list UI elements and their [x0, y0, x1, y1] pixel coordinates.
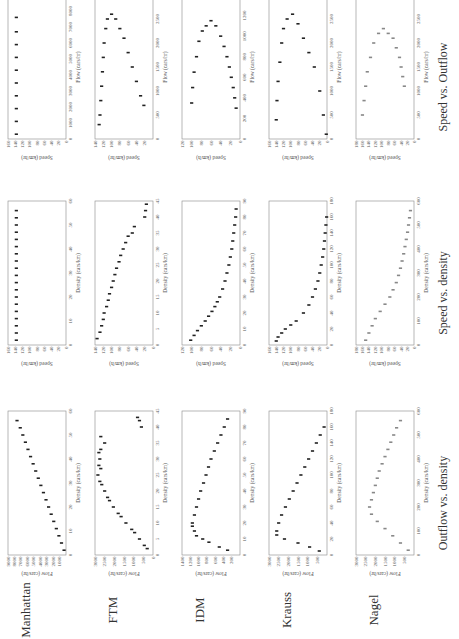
svg-text:10: 10: [242, 536, 247, 542]
svg-text:1500: 1500: [383, 556, 388, 567]
svg-text:2000: 2000: [329, 38, 334, 49]
svg-text:500: 500: [416, 111, 421, 119]
svg-text:40: 40: [399, 346, 404, 352]
svg-text:160: 160: [6, 140, 11, 148]
svg-text:0: 0: [155, 343, 160, 346]
svg-text:30: 30: [155, 246, 160, 252]
svg-text:20: 20: [56, 140, 61, 146]
chart-manhattan-outflow-vs-density: 0102030405060100020003000400050006000700…: [4, 407, 80, 577]
svg-text:60: 60: [68, 198, 73, 204]
svg-text:80: 80: [386, 346, 391, 352]
svg-text:20: 20: [155, 278, 160, 284]
svg-text:5: 5: [155, 537, 160, 540]
svg-text:100: 100: [109, 346, 114, 354]
svg-text:800: 800: [242, 52, 247, 60]
svg-text:2000: 2000: [373, 556, 378, 567]
plot-area: [182, 201, 240, 345]
svg-text:500: 500: [416, 221, 421, 229]
svg-text:5: 5: [155, 327, 160, 330]
svg-text:400: 400: [221, 556, 226, 564]
svg-text:180: 180: [354, 346, 359, 354]
svg-text:40: 40: [310, 346, 315, 352]
svg-text:60: 60: [303, 346, 308, 352]
svg-text:40: 40: [68, 246, 73, 252]
chart-manhattan-speed-vs-outflow: 0100020003000400050006000700080009000020…: [4, 0, 80, 161]
svg-text:80: 80: [117, 346, 122, 352]
svg-text:40: 40: [218, 140, 223, 146]
svg-text:20: 20: [242, 310, 247, 316]
svg-text:120: 120: [281, 346, 286, 354]
svg-text:20: 20: [317, 346, 322, 352]
chart-nagel-speed-vs-outflow: 0500100015002000250030000204060801001201…: [352, 0, 428, 161]
svg-text:180: 180: [329, 407, 334, 415]
svg-text:60: 60: [392, 346, 397, 352]
svg-text:80: 80: [117, 140, 122, 146]
svg-text:0: 0: [325, 140, 330, 143]
svg-text:80: 80: [329, 278, 334, 284]
svg-text:800: 800: [204, 556, 209, 564]
row-label-idm: IDM: [192, 581, 208, 639]
svg-text:2000: 2000: [68, 102, 73, 113]
plot-area: [95, 411, 153, 555]
svg-text:10: 10: [68, 528, 73, 534]
svg-text:Density (cars/km): Density (cars/km): [423, 463, 430, 503]
svg-text:140: 140: [13, 140, 18, 148]
svg-text:20: 20: [329, 326, 334, 332]
svg-text:10: 10: [242, 326, 247, 332]
svg-text:2000: 2000: [51, 556, 56, 567]
svg-text:20: 20: [405, 140, 410, 146]
chart-ftm-speed-vs-density: 051015202530354045020406080100120140Dens…: [91, 197, 167, 367]
svg-text:2500: 2500: [276, 556, 281, 567]
svg-text:160: 160: [267, 346, 272, 354]
svg-text:0: 0: [416, 553, 421, 556]
svg-text:10: 10: [68, 318, 73, 324]
row-label-manhattan: Manhattan: [18, 581, 34, 639]
svg-text:120: 120: [180, 346, 185, 354]
svg-text:100: 100: [288, 346, 293, 354]
svg-text:70: 70: [242, 440, 247, 446]
column-title-speed-density: Speed vs. density: [436, 193, 451, 393]
svg-text:100: 100: [379, 140, 384, 148]
svg-text:8000: 8000: [12, 556, 17, 567]
chart-krauss-outflow-vs-density: 0204060801001201401601805001000150020002…: [265, 407, 341, 577]
svg-text:35: 35: [155, 230, 160, 236]
chart-krauss-speed-vs-density: 0204060801001201401601800204060801001201…: [265, 197, 341, 367]
svg-text:2000: 2000: [112, 556, 117, 567]
svg-text:100: 100: [329, 471, 334, 479]
svg-text:5000: 5000: [68, 54, 73, 65]
svg-text:Speed (km/hr): Speed (km/hr): [282, 360, 314, 367]
svg-text:45: 45: [155, 408, 160, 414]
svg-text:0: 0: [242, 137, 247, 140]
svg-text:140: 140: [13, 346, 18, 354]
svg-text:8000: 8000: [68, 6, 73, 17]
svg-text:600: 600: [416, 407, 421, 415]
svg-text:1000: 1000: [68, 118, 73, 129]
svg-text:60: 60: [392, 140, 397, 146]
svg-text:200: 200: [416, 503, 421, 511]
svg-text:0: 0: [242, 343, 247, 346]
plot-area: [356, 0, 414, 139]
svg-text:30: 30: [68, 480, 73, 486]
svg-text:30: 30: [242, 294, 247, 300]
plot-area: [95, 201, 153, 345]
svg-text:25: 25: [155, 472, 160, 478]
svg-text:90: 90: [242, 408, 247, 414]
svg-text:80: 80: [386, 140, 391, 146]
svg-text:0: 0: [238, 140, 243, 143]
svg-text:100: 100: [288, 140, 293, 148]
svg-text:140: 140: [93, 140, 98, 148]
svg-text:50: 50: [68, 432, 73, 438]
svg-text:1000: 1000: [329, 86, 334, 97]
chart-ftm-speed-vs-outflow: 0500100015002000250030002040608010012014…: [91, 0, 167, 161]
svg-text:60: 60: [68, 408, 73, 414]
svg-text:40: 40: [134, 140, 139, 146]
svg-text:Density (cars/km): Density (cars/km): [423, 253, 430, 293]
svg-text:60: 60: [303, 140, 308, 146]
svg-text:80: 80: [329, 488, 334, 494]
svg-text:Speed (km/hr): Speed (km/hr): [21, 360, 53, 367]
svg-text:160: 160: [360, 140, 365, 148]
svg-text:120: 120: [20, 140, 25, 148]
svg-text:120: 120: [281, 140, 286, 148]
svg-text:100: 100: [189, 346, 194, 354]
svg-text:100: 100: [379, 346, 384, 354]
